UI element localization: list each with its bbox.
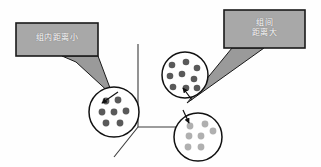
callout-box-between-group	[224, 10, 305, 48]
data-point	[123, 108, 130, 115]
data-point	[186, 133, 193, 140]
data-point	[198, 144, 205, 151]
data-point	[202, 121, 209, 128]
data-point	[194, 65, 201, 72]
callout-box-within-group	[16, 23, 98, 56]
data-point	[185, 144, 192, 151]
data-point	[170, 84, 177, 91]
data-point	[115, 97, 122, 104]
data-point	[117, 120, 124, 127]
cluster-lower-right	[174, 113, 222, 161]
clustering-diagram: 组内距离小 组间 距离大	[0, 0, 321, 167]
data-point	[187, 123, 194, 130]
data-point	[191, 76, 198, 83]
data-point	[99, 109, 106, 116]
data-point	[111, 109, 118, 116]
data-point	[194, 85, 201, 92]
data-point	[103, 120, 110, 127]
data-point	[198, 133, 205, 140]
data-point	[179, 71, 186, 78]
data-point	[183, 59, 190, 66]
data-point	[169, 62, 176, 69]
data-point	[210, 128, 217, 135]
data-point	[167, 73, 174, 80]
diagram-canvas	[0, 0, 321, 167]
